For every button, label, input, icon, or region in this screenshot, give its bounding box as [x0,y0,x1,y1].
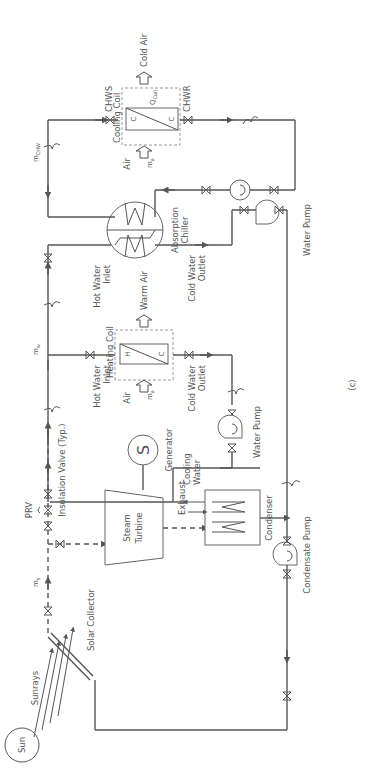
cooling-coil: C C [122,88,180,145]
water-pump-1-valve-2 [228,444,236,452]
heating-coil-label: Heating Coil [105,326,115,378]
generator-label: Generator [164,428,174,472]
water-pump-1-label: Water Pump [252,406,262,458]
system-schematic: Sun Sunrays Solar Collector ms PRV Insol… [0,0,375,770]
chw-flow-label: mCHW [32,143,41,162]
cold-water-outlet-2-label-2: Outlet [197,254,207,281]
condenser [205,490,260,545]
water-pump-2-label: Water Pump [302,204,312,256]
cooling-coil-c2: C [168,116,176,121]
air-in-heating-label: Air [122,391,132,403]
steam-isolation-valve [44,607,52,615]
warm-air-label: Warm Air [139,270,149,310]
chw-pump [230,180,250,200]
air-in-cooling-label: Air [122,157,132,169]
solar-collector-label: Solar Collector [86,588,96,651]
heating-coil-cold: C [158,351,166,356]
hot-water-inlet-2-label: Hot Water [92,265,102,308]
steam-flow-label: ms [32,577,41,587]
absorption-chiller-label: Absorption [170,207,180,253]
cooling-water-label: Cooling [182,453,192,485]
cooling-air-in-arrow-icon [136,146,152,158]
cold-air-label: Cold Air [139,33,149,67]
cooling-coil-label: Cooling Coil [112,93,122,143]
condensate-pump-label: Condensate Pump [302,516,312,593]
cold-water-outlet-1-label-2: Outlet [197,364,207,391]
cooling-water-label-2: Water [192,459,202,485]
heating-coil: H C [115,330,173,380]
hot-water-flow-label: mw [32,344,41,355]
steam-turbine-label-2: Turbine [134,512,144,544]
generator-symbol: S [134,445,153,455]
hot-water-inlet-1-label: Hot Water [92,365,102,408]
water-pump-1 [218,415,242,438]
cold-air-arrow-icon [136,72,152,84]
cooling-coil-c1: C [130,116,138,121]
chwr-label: CHWR [182,85,192,112]
heating-coil-hot: H [124,351,132,356]
generator: S [128,435,158,465]
cooling-air-flow-label: ma [146,158,155,168]
cold-water-outlet-1-label: Cold Water [187,365,197,412]
condensate-pump [273,542,297,565]
sun: Sun [5,728,39,762]
steam-turbine-label: Steam [122,514,132,541]
sun-label: Sun [17,737,27,753]
cold-water-outlet-2-label: Cold Water [187,255,197,302]
figure-caption: (c) [347,379,357,390]
warm-air-arrow-icon [136,315,152,327]
absorption-chiller-label-2: Chiller [180,216,190,244]
hot-water-inlet-2-label-2: Inlet [102,264,112,283]
sunrays-label: Sunrays [30,670,40,705]
prv-label: PRV [24,502,34,519]
